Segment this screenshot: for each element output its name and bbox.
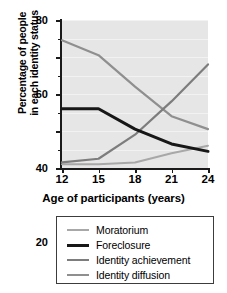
legend-swatch [67,259,89,261]
y-tick-label: 80 [36,15,48,26]
x-axis-line [60,168,208,170]
y-tick-label: 40 [36,163,48,174]
legend-item: Foreclosure [67,238,213,252]
line-chart-figure: Percentage of people in each identity st… [0,0,227,293]
y-tick-label: 60 [36,89,48,100]
series-line [62,146,208,165]
plot-area: 020406080 1215182124 [62,20,208,168]
legend-swatch [67,229,89,231]
legend-label: Foreclosure [96,239,150,251]
series-line [62,109,208,152]
legend-label: Moratorium [96,224,148,236]
x-tick-label: 21 [165,174,178,186]
legend-label: Identity diffusion [96,269,170,281]
y-axis-title-line-2: in each identity status [28,10,40,116]
x-axis-title: Age of participants (years) [0,192,227,204]
y-axis-title-line-1: Percentage of people [16,12,28,114]
legend-swatch [67,274,89,276]
y-tick-label: 20 [36,237,48,248]
x-tick-label: 12 [56,174,69,186]
series-lines [62,20,208,168]
legend-item: Identity diffusion [67,268,213,282]
x-tick-label: 18 [129,174,142,186]
legend-item: Moratorium [67,223,213,237]
legend: MoratoriumForeclosureIdentity achievemen… [56,216,214,284]
series-line [62,40,208,129]
x-tick-label: 24 [202,174,215,186]
legend-item: Identity achievement [67,253,213,267]
legend-swatch [67,244,89,247]
x-tick-label: 15 [92,174,105,186]
legend-label: Identity achievement [96,254,190,266]
